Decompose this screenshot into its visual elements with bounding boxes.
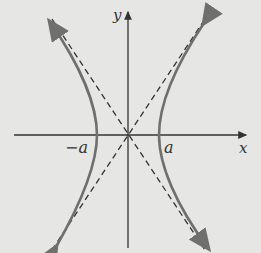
y-axis-label: y	[112, 6, 122, 24]
x-axis-label: x	[239, 139, 248, 157]
hyperbola-diagram: y x −a a	[0, 0, 261, 253]
right-vertex-label: a	[164, 138, 174, 157]
left-vertex-label: −a	[65, 138, 88, 157]
